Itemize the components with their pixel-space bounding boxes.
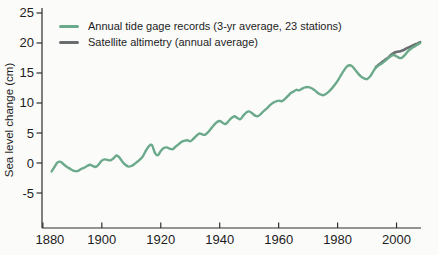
legend-item-tide-gage: Annual tide gage records (3-yr average, … [59, 18, 342, 34]
y-tick-label: 15 [20, 65, 34, 80]
legend-label-tide-gage: Annual tide gage records (3-yr average, … [88, 19, 342, 34]
y-tick-label: 5 [27, 126, 34, 141]
x-tick-label: 2000 [382, 232, 411, 247]
y-axis-title: Sea level change (cm) [3, 63, 15, 178]
legend: Annual tide gage records (3-yr average, … [59, 18, 342, 50]
sea-level-change-chart: Sea level change (cm) 2520151050-5188019… [0, 0, 438, 255]
tide-gage-line-swatch [59, 25, 79, 28]
y-tick-label: 25 [20, 5, 34, 20]
y-tick-label: 20 [20, 35, 34, 50]
satellite-line-swatch [59, 41, 79, 44]
y-tick-label: 0 [27, 156, 34, 171]
y-tick-label: -5 [22, 186, 34, 201]
legend-label-satellite: Satellite altimetry (annual average) [88, 35, 258, 50]
legend-item-satellite: Satellite altimetry (annual average) [59, 34, 342, 50]
x-tick-label: 1940 [205, 232, 234, 247]
x-tick-label: 1980 [323, 232, 352, 247]
x-tick-label: 1960 [264, 232, 293, 247]
x-tick-label: 1900 [87, 232, 116, 247]
tide-gage-line [52, 43, 420, 171]
x-tick-label: 1880 [35, 232, 64, 247]
y-tick-label: 10 [20, 95, 34, 110]
x-tick-label: 1920 [146, 232, 175, 247]
